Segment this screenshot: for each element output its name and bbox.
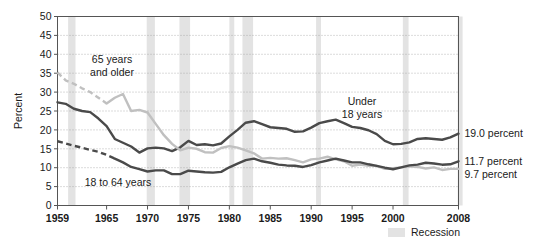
x-tick-label: 1959 (46, 212, 70, 224)
recession-band (68, 17, 75, 206)
y-tick-label: 25 (40, 105, 52, 117)
x-tick-label: 1975 (177, 212, 201, 224)
x-tick-label: 1985 (259, 212, 283, 224)
label-65-and-older-line2: and older (90, 66, 134, 78)
y-tick-label: 35 (40, 67, 52, 79)
end-label-18-to-64-years: 11.7 percent (465, 155, 523, 167)
label-65-and-older-line1: 65 years (92, 53, 132, 65)
end-label-under-18-years: 19.0 percent (465, 127, 523, 139)
y-tick-label: 0 (46, 199, 52, 211)
poverty-rate-chart: 05101520253035404550 1959196519701975198… (0, 0, 542, 246)
y-tick-label: 5 (46, 180, 52, 192)
y-tick-label: 45 (40, 29, 52, 41)
x-tick-label: 2000 (381, 212, 405, 224)
label-18-to-64: 18 to 64 years (85, 176, 152, 188)
recession-legend-label: Recession (411, 226, 460, 238)
y-axis-title: Percent (12, 93, 24, 129)
x-tick-label: 1980 (218, 212, 242, 224)
y-tick-label: 15 (40, 143, 52, 155)
recession-legend-swatch (388, 228, 405, 237)
x-tick-label: 1970 (136, 212, 160, 224)
y-tick-label: 20 (40, 124, 52, 136)
y-tick-label: 40 (40, 48, 52, 60)
y-tick-label: 30 (40, 86, 52, 98)
end-label-65-years-and-older: 9.7 percent (465, 168, 518, 180)
y-tick-label: 10 (40, 161, 52, 173)
x-tick-label: 1990 (300, 212, 324, 224)
chart-canvas: 05101520253035404550 1959196519701975198… (0, 0, 542, 246)
x-tick-label: 1995 (340, 212, 364, 224)
y-tick-label: 50 (40, 10, 52, 22)
x-tick-label: 1965 (95, 212, 119, 224)
label-under-18-line1: Under (348, 95, 377, 107)
label-under-18-line2: 18 years (342, 108, 382, 120)
x-tick-label: 2008 (447, 212, 471, 224)
